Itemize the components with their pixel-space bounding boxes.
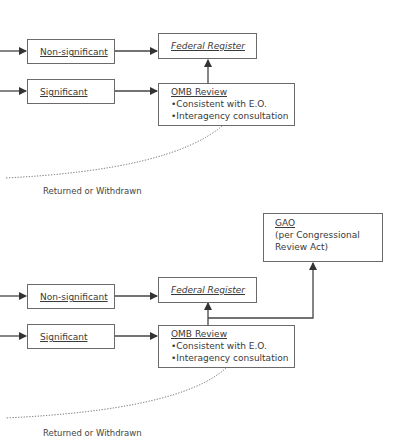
returned-withdrawn-label: Returned or Withdrawn	[43, 428, 142, 438]
omb-review-box: OMB Review •Consistent with E.O. •Intera…	[158, 83, 295, 126]
gao-line-1: (per Congressional	[275, 229, 360, 241]
gao-title: GAO	[275, 217, 295, 229]
returned-withdrawn-label: Returned or Withdrawn	[43, 186, 142, 196]
gao-box: GAO (per Congressional Review Act)	[263, 213, 383, 262]
omb-bullet-consistent: •Consistent with E.O.	[171, 98, 267, 110]
significant-box: Significant	[27, 79, 115, 104]
omb-review-title: OMB Review	[171, 328, 227, 340]
omb-review-title: OMB Review	[171, 86, 227, 98]
non-significant-box: Non-significant	[27, 284, 115, 309]
non-significant-label: Non-significant	[40, 46, 108, 58]
omb-bullet-interagency: •Interagency consultation	[171, 352, 288, 364]
non-significant-box: Non-significant	[27, 39, 115, 64]
non-significant-label: Non-significant	[40, 291, 108, 303]
omb-bullet-consistent: •Consistent with E.O.	[171, 340, 267, 352]
federal-register-label: Federal Register	[171, 40, 245, 52]
federal-register-label: Federal Register	[171, 284, 245, 296]
gao-line-2: Review Act)	[275, 241, 328, 253]
significant-label: Significant	[40, 331, 88, 343]
federal-register-box: Federal Register	[158, 277, 257, 303]
significant-box: Significant	[27, 324, 115, 349]
omb-bullet-interagency: •Interagency consultation	[171, 110, 288, 122]
omb-review-box: OMB Review •Consistent with E.O. •Intera…	[158, 325, 295, 368]
significant-label: Significant	[40, 86, 88, 98]
federal-register-box: Federal Register	[158, 33, 257, 59]
